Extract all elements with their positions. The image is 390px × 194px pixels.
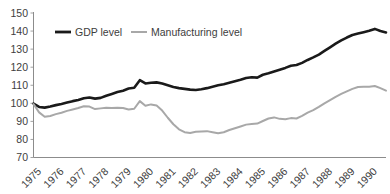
x-tick-label: 1985: [242, 165, 267, 190]
chart-legend: GDP levelManufacturing level: [55, 26, 242, 38]
x-tick-label: 1980: [130, 165, 155, 190]
legend-label-manufacturing-level: Manufacturing level: [151, 26, 242, 38]
y-tick-label: 70: [16, 151, 28, 163]
y-tick-label: 130: [10, 43, 28, 55]
x-tick-label: 1975: [18, 165, 43, 190]
x-tick-label: 1987: [287, 165, 312, 190]
x-tick-label: 1982: [175, 165, 200, 190]
y-tick-label: 80: [16, 133, 28, 145]
legend-label-gdp-level: GDP level: [75, 26, 122, 38]
series-line-manufacturing-level: [34, 86, 387, 133]
x-tick-label: 1988: [309, 165, 334, 190]
x-axis-tick-labels: 1975197619771978197919801981198219831984…: [18, 165, 379, 190]
y-tick-label: 90: [16, 115, 28, 127]
x-tick-label: 1984: [220, 165, 245, 190]
x-tick-label: 1977: [63, 165, 88, 190]
x-tick-label: 1979: [108, 165, 133, 190]
y-axis-tick-labels: 150140130120110100908070: [10, 7, 33, 164]
x-tick-label: 1978: [86, 165, 111, 190]
x-tick-label: 1983: [197, 165, 222, 190]
x-tick-label: 1990: [354, 165, 379, 190]
x-tick-label: 1989: [332, 165, 357, 190]
series-line-gdp-level: [34, 29, 387, 108]
x-tick-label: 1986: [265, 165, 290, 190]
y-tick-label: 140: [10, 25, 28, 37]
y-tick-label: 110: [11, 79, 28, 91]
y-tick-label: 100: [10, 97, 28, 109]
x-tick-label: 1976: [41, 165, 66, 190]
chart-canvas: 150140130120110100908070 197519761977197…: [0, 0, 390, 194]
line-chart: 150140130120110100908070 197519761977197…: [0, 0, 390, 194]
series-lines: [34, 29, 387, 133]
x-tick-label: 1981: [153, 165, 178, 190]
y-tick-label: 150: [10, 7, 28, 19]
y-tick-label: 120: [10, 61, 28, 73]
